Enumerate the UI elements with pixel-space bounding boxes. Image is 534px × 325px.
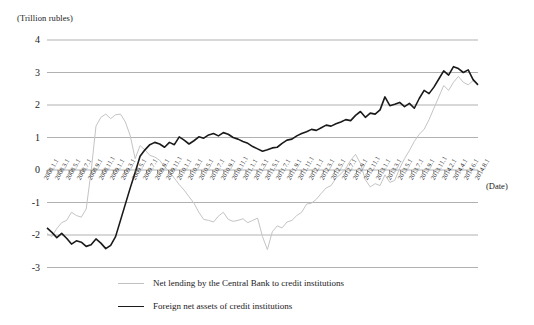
legend-item-1: Foreign net assets of credit institution… — [118, 301, 292, 311]
legend-swatch-icon — [118, 283, 144, 284]
gridlines — [47, 40, 478, 268]
chart-container: (Trillion rubles) (Date) 43210-1-2-3 200… — [0, 0, 534, 325]
legend-label: Foreign net assets of credit institution… — [153, 301, 292, 311]
legend-item-0: Net lending by the Central Bank to credi… — [118, 278, 344, 288]
legend-label: Net lending by the Central Bank to credi… — [153, 278, 344, 288]
legend-swatch-icon — [118, 306, 144, 307]
